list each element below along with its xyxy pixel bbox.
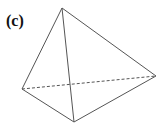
edge-top-right	[62, 8, 156, 76]
edge-left-bottom	[22, 89, 74, 122]
tetrahedron-diagram	[0, 0, 164, 127]
edge-top-left	[22, 8, 62, 89]
edge-bottom-right	[74, 76, 156, 122]
edge-top-bottom	[62, 8, 74, 122]
